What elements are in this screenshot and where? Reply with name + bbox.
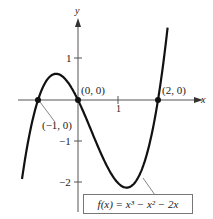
- y-axis-label: y: [75, 6, 79, 16]
- y-axis-arrow-icon: [75, 18, 81, 27]
- y-tick-label-1: 1: [66, 53, 72, 64]
- point-m1-0: [35, 97, 41, 103]
- point-label-2: (2, 0): [162, 85, 186, 96]
- function-label: f(x) = x³ − x² − 2x: [98, 198, 179, 210]
- plot-area: [0, 0, 213, 219]
- cubic-function-graph: y x 1 −1 −2 1 (−1, 0) (0, 0) (2, 0) f(x)…: [0, 0, 213, 219]
- y-tick-label-m2: −2: [59, 177, 71, 188]
- x-axis-label: x: [201, 95, 205, 105]
- y-tick-label-m1: −1: [59, 136, 71, 147]
- function-label-box: f(x) = x³ − x² − 2x: [83, 194, 193, 214]
- point-0-0: [75, 97, 81, 103]
- leader-line-func: [143, 178, 155, 195]
- point-label-m1: (−1, 0): [42, 120, 72, 131]
- point-2-0: [155, 97, 161, 103]
- x-tick-label-1: 1: [116, 104, 121, 114]
- point-label-0: (0, 0): [81, 85, 105, 96]
